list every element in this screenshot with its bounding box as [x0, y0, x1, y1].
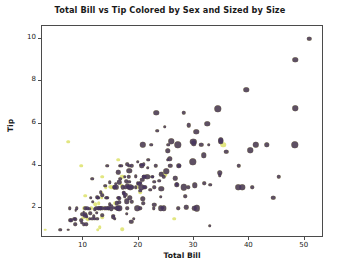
x-tick-mark	[193, 237, 194, 240]
data-point	[166, 158, 170, 162]
data-points-layer	[42, 26, 322, 236]
data-point	[208, 224, 212, 228]
y-tick-label: 4	[8, 160, 36, 168]
data-point	[172, 217, 176, 221]
data-point	[277, 174, 282, 179]
y-tick-mark	[38, 80, 41, 81]
data-point	[173, 176, 178, 181]
data-point	[134, 185, 138, 189]
data-point	[194, 129, 199, 134]
data-point	[95, 217, 99, 221]
data-point	[292, 105, 297, 110]
data-point	[68, 207, 72, 211]
data-point	[217, 170, 222, 175]
data-point	[69, 218, 73, 222]
data-point	[95, 211, 99, 215]
data-point	[58, 228, 62, 232]
data-point	[161, 175, 166, 180]
x-tick-label: 40	[233, 241, 263, 249]
y-axis-label: Tip	[6, 106, 15, 146]
data-point	[208, 183, 212, 187]
data-point	[264, 142, 269, 147]
data-point	[224, 149, 229, 154]
chart-title: Total Bill vs Tip Colored by Sex and Siz…	[0, 5, 340, 15]
data-point	[139, 184, 144, 189]
data-point	[271, 195, 276, 200]
data-point	[189, 158, 196, 165]
data-point	[121, 190, 126, 195]
data-point	[106, 164, 110, 168]
data-point	[149, 143, 153, 147]
data-point	[101, 213, 105, 217]
x-tick-label: 10	[67, 241, 97, 249]
data-point	[152, 207, 156, 211]
data-point	[155, 129, 159, 133]
data-point	[175, 182, 179, 186]
data-point	[164, 168, 169, 173]
data-point	[291, 141, 298, 148]
data-point	[123, 185, 127, 189]
data-point	[129, 164, 134, 169]
data-point	[127, 180, 131, 184]
data-point	[125, 207, 129, 211]
data-point	[117, 180, 122, 185]
data-point	[116, 206, 121, 211]
data-point	[73, 217, 77, 221]
data-point	[96, 228, 100, 232]
data-point	[73, 222, 77, 226]
data-point	[184, 205, 189, 210]
data-point	[182, 111, 187, 116]
data-point	[251, 185, 255, 189]
data-point	[116, 196, 120, 200]
data-point	[243, 87, 248, 92]
data-point	[146, 166, 150, 170]
data-point	[139, 163, 144, 168]
data-point	[91, 177, 95, 181]
data-point	[89, 196, 93, 200]
data-point	[100, 194, 104, 198]
x-tick-mark	[138, 237, 139, 240]
data-point	[97, 202, 101, 206]
data-point	[66, 140, 70, 144]
data-point	[177, 207, 181, 211]
data-point	[177, 164, 181, 168]
data-point	[293, 57, 298, 62]
x-tick-mark	[82, 237, 83, 240]
x-axis-label: Total Bill	[41, 251, 323, 260]
data-point	[130, 185, 134, 189]
data-point	[174, 141, 181, 148]
data-point	[85, 207, 89, 211]
data-point	[134, 175, 138, 179]
data-point	[240, 184, 245, 189]
data-point	[82, 222, 86, 226]
data-point	[154, 110, 159, 115]
data-point	[74, 209, 77, 212]
data-point	[253, 142, 259, 148]
data-point	[154, 164, 159, 169]
data-point	[186, 123, 191, 128]
data-point	[44, 228, 47, 231]
data-point	[192, 206, 197, 211]
data-point	[83, 194, 87, 198]
data-point	[236, 164, 241, 169]
data-point	[203, 182, 207, 186]
data-point	[67, 228, 70, 231]
data-point	[91, 200, 95, 204]
data-point	[146, 158, 150, 162]
data-point	[163, 125, 167, 129]
data-point	[120, 228, 124, 232]
data-point	[129, 220, 134, 225]
data-point	[85, 215, 89, 219]
data-point	[138, 189, 142, 193]
data-point	[112, 185, 116, 189]
data-point	[90, 217, 94, 221]
data-point	[207, 143, 211, 147]
data-point	[141, 201, 145, 205]
data-point	[150, 175, 154, 179]
data-point	[181, 184, 187, 190]
y-tick-mark	[38, 165, 41, 166]
y-tick-label: 8	[8, 75, 36, 83]
data-point	[135, 206, 140, 211]
plot-area	[41, 25, 323, 237]
data-point	[165, 148, 170, 153]
